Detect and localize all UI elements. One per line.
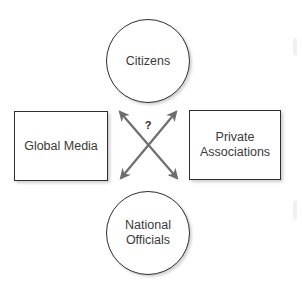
- node-citizens-label: Citizens: [126, 54, 170, 69]
- node-national-officials-label: National Officials: [125, 218, 171, 248]
- node-private-associations: Private Associations: [189, 110, 281, 180]
- node-national-officials: National Officials: [106, 191, 190, 275]
- scan-artifact: [293, 200, 297, 220]
- node-global-media-label: Global Media: [24, 139, 98, 154]
- question-mark-label: ?: [142, 119, 154, 131]
- node-citizens: Citizens: [106, 19, 190, 103]
- node-private-associations-label: Private Associations: [200, 130, 270, 160]
- node-global-media: Global Media: [14, 111, 108, 181]
- diagram-canvas: ? Citizens Global Media Private Associat…: [0, 0, 302, 288]
- scan-artifact: [293, 38, 297, 56]
